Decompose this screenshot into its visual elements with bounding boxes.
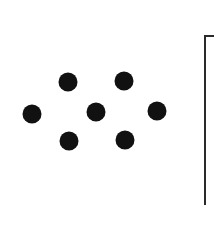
dot-left [23, 105, 42, 124]
dot-bottom-left [60, 132, 79, 151]
dot-right [148, 102, 167, 121]
dot-top-left [59, 73, 78, 92]
dot-center [87, 103, 106, 122]
dot-top-right [115, 72, 134, 91]
rectangle-frame [204, 35, 214, 205]
dot-bottom-right [116, 131, 135, 150]
